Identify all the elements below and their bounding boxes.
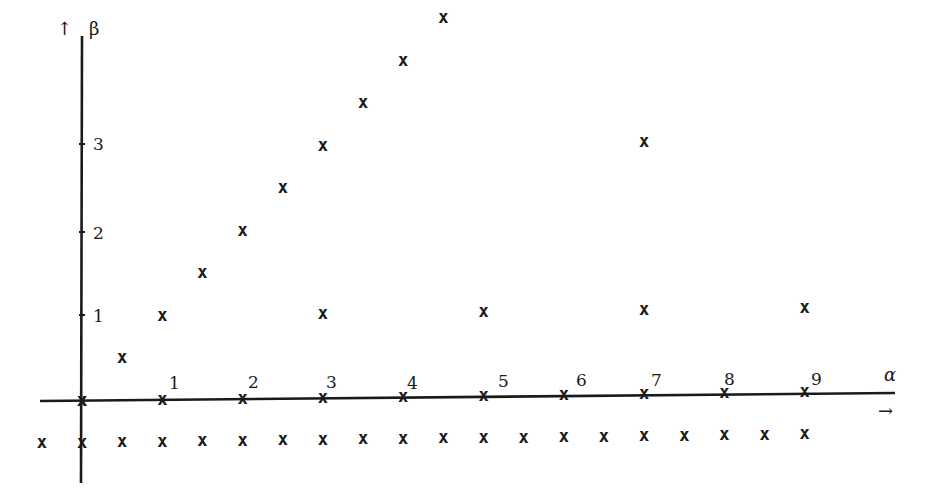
lattice-point-marker: x [518, 427, 528, 447]
beta-tick-label: 1 [93, 306, 104, 326]
data-markers: xxxxxxxxxxxxxxxxxxxxxxxxxxxxxxxxxxxxxxxx… [37, 7, 810, 452]
lattice-point-marker: x [197, 430, 207, 450]
lattice-point-marker: x [278, 177, 288, 197]
alpha-tick-label: 1 [169, 373, 180, 393]
lattice-point-marker: x [77, 390, 87, 410]
lattice-point-marker: x [237, 430, 247, 450]
lattice-point-marker: x [438, 7, 448, 27]
lattice-point-marker: x [759, 424, 769, 444]
beta-tick-label: 2 [93, 223, 104, 243]
lattice-point-marker: x [358, 92, 368, 112]
alpha-tick-label: 9 [811, 369, 822, 389]
lattice-point-marker: x [639, 425, 649, 445]
lattice-point-marker: x [398, 428, 408, 448]
lattice-point-marker: x [197, 262, 207, 282]
lattice-point-marker: x [318, 387, 328, 407]
right-arrow-icon: → [878, 400, 893, 421]
lattice-point-marker: x [318, 303, 328, 323]
lattice-point-marker: x [478, 301, 488, 321]
lattice-point-marker: x [679, 425, 689, 445]
lattice-diagram: ↑ β 1 2 3 1 2 3 4 5 6 7 8 9 α → xxxxxxxx… [0, 0, 934, 497]
lattice-point-marker: x [278, 429, 288, 449]
lattice-point-marker: x [37, 432, 47, 452]
alpha-tick-label: 7 [651, 370, 662, 390]
lattice-point-marker: x [237, 388, 247, 408]
alpha-axis [40, 393, 895, 401]
beta-axis-label: β [89, 18, 99, 39]
lattice-point-marker: x [800, 423, 810, 443]
lattice-point-marker: x [800, 381, 810, 401]
lattice-point-marker: x [318, 429, 328, 449]
lattice-point-marker: x [478, 385, 488, 405]
lattice-point-marker: x [639, 383, 649, 403]
lattice-point-marker: x [157, 305, 167, 325]
lattice-point-marker: x [237, 220, 247, 240]
up-arrow-icon: ↑ [57, 18, 72, 39]
lattice-point-marker: x [157, 389, 167, 409]
alpha-tick-label: 6 [576, 370, 587, 390]
alpha-axis-label: α [884, 364, 896, 385]
lattice-point-marker: x [719, 424, 729, 444]
lattice-point-marker: x [639, 299, 649, 319]
beta-tick-label: 3 [93, 134, 104, 154]
lattice-point-marker: x [639, 131, 649, 151]
lattice-point-marker: x [358, 428, 368, 448]
alpha-tick-label: 4 [407, 373, 418, 393]
lattice-point-marker: x [599, 426, 609, 446]
beta-axis [81, 36, 82, 483]
lattice-point-marker: x [719, 382, 729, 402]
lattice-point-marker: x [117, 431, 127, 451]
lattice-point-marker: x [398, 386, 408, 406]
lattice-point-marker: x [398, 50, 408, 70]
lattice-point-marker: x [117, 347, 127, 367]
lattice-point-marker: x [318, 135, 328, 155]
alpha-tick-label: 5 [498, 371, 509, 391]
lattice-point-marker: x [800, 297, 810, 317]
lattice-point-marker: x [559, 426, 569, 446]
lattice-point-marker: x [77, 432, 87, 452]
lattice-point-marker: x [157, 431, 167, 451]
alpha-tick-label: 2 [248, 372, 259, 392]
lattice-point-marker: x [438, 427, 448, 447]
lattice-point-marker: x [478, 427, 488, 447]
lattice-point-marker: x [559, 384, 569, 404]
